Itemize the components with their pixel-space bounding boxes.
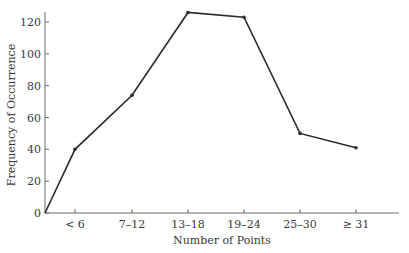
data-point-marker: [130, 93, 134, 97]
y-tick-label: 80: [27, 80, 41, 93]
data-point-marker: [354, 146, 358, 150]
y-tick-label: 0: [34, 207, 41, 220]
y-axis-title: Frequency of Occurrence: [5, 44, 18, 186]
y-tick-label: 120: [20, 16, 41, 29]
y-tick-label: 60: [27, 112, 41, 125]
x-tick-label: 7–12: [119, 218, 146, 231]
y-tick-label: 100: [20, 48, 41, 61]
data-point-marker: [298, 132, 302, 136]
x-tick-label: 25–30: [283, 218, 317, 231]
y-tick-label: 20: [27, 175, 41, 188]
frequency-line: [45, 12, 356, 213]
x-tick-label: 19–24: [227, 218, 261, 231]
y-axis: 020406080100120: [20, 12, 49, 220]
frequency-line-chart: 020406080100120 < 67–1213–1819–2425–30≥ …: [0, 0, 409, 253]
data-point-marker: [242, 15, 246, 19]
x-tick-label: ≥ 31: [343, 218, 370, 231]
x-axis: < 67–1213–1819–2425–30≥ 31: [45, 209, 399, 231]
data-point-marker: [73, 148, 77, 152]
x-axis-title: Number of Points: [173, 234, 271, 247]
x-tick-label: 13–18: [171, 218, 205, 231]
y-tick-label: 40: [27, 143, 41, 156]
data-point-marker: [186, 11, 190, 15]
x-tick-label: < 6: [65, 218, 85, 231]
series-frequency: [45, 11, 358, 213]
